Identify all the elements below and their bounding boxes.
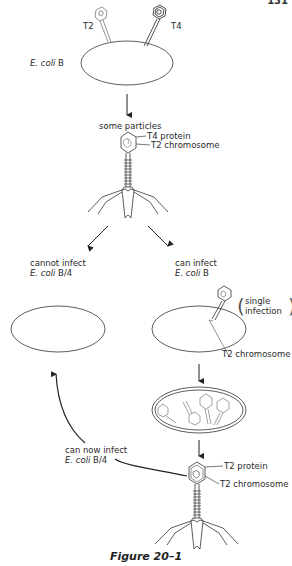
arrow-right xyxy=(148,226,168,246)
ecoli-b-cell-right xyxy=(152,306,246,352)
ecoli-b4-cell xyxy=(11,306,105,352)
infected-cell xyxy=(152,387,246,433)
progeny-t2-phage-icon xyxy=(155,462,238,549)
t2-chromosome-phage-icon xyxy=(212,286,231,320)
can-now-infect-label: can now infect E. coli B/4 xyxy=(65,445,127,465)
some-particles-label: some particles xyxy=(99,121,161,131)
t2-phage-icon xyxy=(95,7,111,42)
t2-chromosome-label: T2 chromosome xyxy=(151,140,220,150)
t2-chromosome-right-label: T2 chromosome xyxy=(222,349,291,359)
t2-label: T2 xyxy=(83,21,94,31)
t2-chromosome-progeny-label: T2 chromosome xyxy=(220,479,289,489)
single-infection-note: ( single infection ) xyxy=(240,296,282,316)
ecoli-b-cell-top xyxy=(81,41,173,85)
t2-protein-label: T2 protein xyxy=(224,461,268,471)
can-infect-label: can infect E. coli B xyxy=(175,258,217,278)
cannot-infect-label: cannot infect E. coli B/4 xyxy=(30,258,86,278)
page-number: 131 xyxy=(267,0,288,6)
t4-label: T4 xyxy=(171,21,182,31)
arrow-left xyxy=(88,226,108,246)
progeny-phages-icon xyxy=(158,394,229,425)
figure-caption: Figure 20–1 xyxy=(0,550,292,563)
ecoli-b-label: E. coli B xyxy=(30,58,64,68)
t4-phage-icon xyxy=(144,5,166,46)
